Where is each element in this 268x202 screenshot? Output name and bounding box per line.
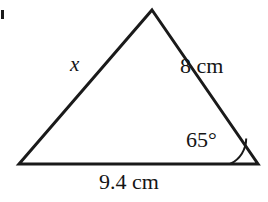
label-angle-measure: 65° [186,129,217,151]
triangle-figure: x 8 cm 65° 9.4 cm [0,0,268,202]
label-base-side-length: 9.4 cm [99,171,159,193]
label-right-side-length: 8 cm [180,55,223,77]
label-unknown-side-x: x [70,54,79,75]
triangle-outline [19,10,258,164]
page-edge-mark [1,10,4,19]
